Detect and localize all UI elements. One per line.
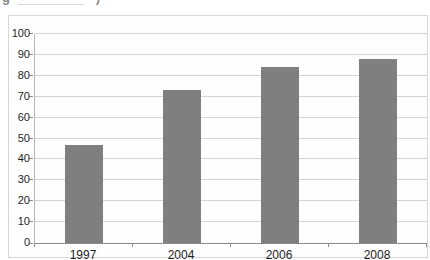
x-axis-label-2008: 2008 — [328, 249, 426, 260]
y-axis-label-60: 60 — [9, 112, 30, 123]
plot-area — [34, 34, 427, 243]
bar-chart: 01020304050607080901001997200420062008 — [8, 15, 428, 258]
gridline-90 — [35, 54, 427, 55]
x-tick-4 — [426, 243, 427, 247]
bar-2006 — [261, 67, 299, 243]
x-tick-3 — [328, 243, 329, 247]
gridline-100 — [35, 33, 427, 34]
bar-2004 — [163, 90, 201, 243]
x-axis-label-1997: 1997 — [34, 249, 132, 260]
y-axis-label-80: 80 — [9, 70, 30, 81]
x-axis-label-2004: 2004 — [132, 249, 230, 260]
y-axis-label-40: 40 — [9, 153, 30, 164]
caption-smudge — [18, 4, 84, 5]
x-tick-0 — [34, 243, 35, 247]
caption-fragment-right: ) — [96, 0, 100, 5]
y-axis-label-90: 90 — [9, 49, 30, 60]
cropped-caption: g ) — [2, 0, 104, 7]
y-axis-label-0: 0 — [9, 237, 30, 248]
screenshot-root: { "page": { "caption_fragment_left": "g"… — [0, 0, 430, 260]
y-axis-label-70: 70 — [9, 91, 30, 102]
y-axis-label-50: 50 — [9, 133, 30, 144]
bar-2008 — [359, 59, 397, 243]
x-axis-label-2006: 2006 — [230, 249, 328, 260]
caption-fragment-left: g — [2, 0, 10, 5]
y-axis-label-100: 100 — [9, 28, 30, 39]
y-axis-label-20: 20 — [9, 195, 30, 206]
y-axis-label-10: 10 — [9, 216, 30, 227]
y-axis-label-30: 30 — [9, 174, 30, 185]
x-tick-2 — [230, 243, 231, 247]
x-tick-1 — [132, 243, 133, 247]
bar-1997 — [65, 145, 103, 243]
